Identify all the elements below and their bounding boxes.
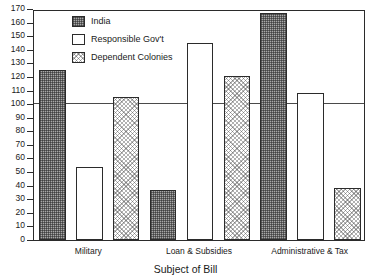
x-axis-labels: MilitaryLoan & SubsidiesAdministrative &… — [33, 246, 365, 260]
y-tick-label: 50 — [16, 167, 25, 176]
y-tick-label: 70 — [16, 140, 25, 149]
y-tick-label: 110 — [11, 86, 25, 95]
y-axis: 0102030405060708090100110120130140150160… — [0, 10, 33, 241]
x-axis-category-label: Loan & Subsidies — [166, 246, 232, 257]
bar — [187, 43, 214, 240]
legend-item-responsible-govt: Responsible Gov't — [72, 31, 173, 47]
bar — [39, 70, 66, 240]
y-tick-label: 0 — [20, 235, 25, 244]
y-tick-label: 150 — [11, 31, 25, 40]
legend: India Responsible Gov't Dependent Coloni… — [72, 13, 173, 67]
y-tick-label: 90 — [16, 113, 25, 122]
bar — [76, 167, 103, 240]
x-axis-category-label: Military — [75, 246, 102, 257]
legend-label-responsible-govt: Responsible Gov't — [91, 34, 164, 45]
y-tick-label: 60 — [16, 153, 25, 162]
y-tick-label: 10 — [16, 221, 25, 230]
y-tick-label: 170 — [11, 4, 25, 13]
legend-item-india: India — [72, 13, 173, 29]
y-tick-label: 100 — [11, 99, 25, 108]
bar — [334, 188, 361, 240]
bar — [224, 76, 251, 240]
legend-label-india: India — [91, 16, 111, 27]
bar — [260, 13, 287, 240]
y-tick-label: 160 — [11, 18, 25, 27]
y-tick-label: 80 — [16, 126, 25, 135]
y-tick-label: 120 — [11, 72, 25, 81]
bar-chart: 0102030405060708090100110120130140150160… — [0, 0, 371, 279]
y-tick-label: 140 — [11, 45, 25, 54]
bar — [150, 190, 177, 240]
legend-item-dependent-colonies: Dependent Colonies — [72, 49, 173, 65]
y-tick-label: 40 — [16, 181, 25, 190]
y-tick-label: 130 — [11, 58, 25, 67]
y-tick-label: 30 — [16, 194, 25, 203]
y-tick-label: 20 — [16, 208, 25, 217]
bar — [113, 97, 140, 240]
legend-swatch-dependent-colonies-icon — [72, 52, 85, 63]
x-axis-category-label: Administrative & Tax — [271, 246, 348, 257]
legend-label-dependent-colonies: Dependent Colonies — [91, 52, 173, 63]
x-axis-title: Subject of Bill — [0, 263, 371, 276]
bar — [297, 93, 324, 240]
legend-swatch-india-icon — [72, 16, 85, 27]
legend-swatch-responsible-govt-icon — [72, 34, 85, 45]
